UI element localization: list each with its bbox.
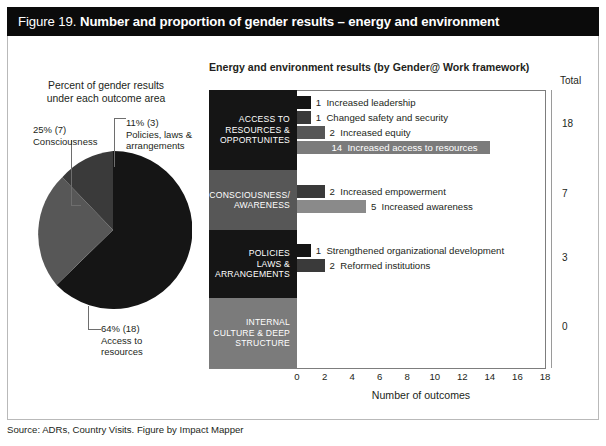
pie-label-policies-name-line1: Policies, laws & [126, 129, 200, 141]
category-block-label-line: ACCESS TO [239, 114, 290, 124]
plot-border-right [545, 90, 546, 368]
x-axis-title: Number of outcomes [296, 389, 546, 401]
bar-label-1-2: 1 Changed safety and security [316, 111, 448, 124]
pie-chart-title-line2: under each outcome area [26, 92, 186, 105]
total-value-1: 18 [562, 118, 573, 129]
x-tick-6: 6 [377, 371, 382, 382]
category-block-label-line: ARRANGEMENTS [215, 269, 290, 279]
category-block-3: POLICIESLAWS &ARRANGEMENTS [209, 230, 297, 298]
pie-leader-line-access-vertical [88, 306, 89, 330]
pie-leader-line-consciousness-foot [71, 205, 81, 206]
category-block-label-line: CONSCIOUSNESS/ [209, 190, 290, 200]
x-tick-0: 0 [294, 371, 299, 382]
pie-label-policies-name-line2: arrangements [126, 140, 200, 152]
bar-category-label: Increased leadership [321, 97, 415, 108]
x-tick-10: 10 [429, 371, 440, 382]
category-block-label-line: OPPORTUNITES [220, 135, 290, 145]
total-column-divider [551, 90, 552, 368]
pie-chart-title: Percent of gender results under each out… [26, 79, 186, 105]
bar-3-1 [297, 244, 311, 257]
bar-value: 14 [331, 142, 342, 153]
x-tick-2: 2 [322, 371, 327, 382]
bar-1-1 [297, 96, 311, 109]
x-tick-8: 8 [405, 371, 410, 382]
bar-3-2 [297, 259, 325, 272]
category-block-label: INTERNALCULTURE & DEEPSTRUCTURE [213, 317, 290, 348]
category-block-label-line: AWARENESS [234, 200, 290, 210]
x-tick-16: 16 [512, 371, 523, 382]
category-block-1: ACCESS TORESOURCES &OPPORTUNITES [209, 90, 297, 170]
figure-title: Number and proportion of gender results … [80, 14, 499, 29]
figure-header-text: Figure 19. Number and proportion of gend… [7, 14, 499, 29]
bar-category-label: Increased access to resources [342, 142, 477, 153]
bar-label-2-1: 2 Increased empowerment [330, 185, 446, 198]
total-column-header: Total [560, 75, 581, 86]
bar-2-1 [297, 185, 325, 198]
pie-label-policies-value: 11% (3) [126, 117, 200, 129]
category-block-label-line: INTERNAL [246, 317, 290, 327]
category-block-label-line: STRUCTURE [235, 338, 290, 348]
total-value-3: 3 [562, 252, 568, 263]
category-block-2: CONSCIOUSNESS/AWARENESS [209, 170, 297, 230]
pie-label-consciousness: 25% (7) Consciousness [33, 124, 113, 147]
total-value-4: 0 [562, 321, 568, 332]
bar-1-3 [297, 126, 325, 139]
bar-1-2 [297, 111, 311, 124]
total-value-2: 7 [562, 188, 568, 199]
figure-header-bar: Figure 19. Number and proportion of gend… [7, 7, 599, 36]
bar-category-label: Changed safety and security [321, 112, 448, 123]
pie-leader-line-access-horizontal [88, 329, 101, 330]
pie-label-access-value: 64% (18) [101, 323, 181, 335]
pie-label-consciousness-value: 25% (7) [33, 124, 113, 136]
plot-axis-x [209, 368, 546, 369]
figure-source: Source: ADRs, Country Visits. Figure by … [7, 424, 244, 435]
category-block-4: INTERNALCULTURE & DEEPSTRUCTURE [209, 298, 297, 368]
bar-label-1-1: 1 Increased leadership [316, 96, 416, 109]
x-tick-4: 4 [349, 371, 354, 382]
pie-label-policies: 11% (3) Policies, laws & arrangements [126, 117, 200, 152]
pie-chart-title-line1: Percent of gender results [26, 79, 186, 92]
category-block-label-line: CULTURE & DEEP [213, 328, 290, 338]
bar-label-3-1: 1 Strengthened organizational developmen… [316, 244, 504, 257]
category-block-label-line: RESOURCES & [225, 125, 290, 135]
category-block-label: CONSCIOUSNESS/AWARENESS [209, 190, 290, 211]
x-tick-14: 14 [485, 371, 496, 382]
bar-chart-title: Energy and environment results (by Gende… [209, 61, 529, 73]
x-tick-18: 18 [540, 371, 551, 382]
pie-label-access-name-line2: resources [101, 346, 181, 358]
bar-category-label: Increased equity [335, 127, 411, 138]
pie-leader-line-policies-horizontal [114, 118, 126, 119]
category-block-label: POLICIESLAWS &ARRANGEMENTS [215, 248, 290, 279]
category-block-label-line: POLICIES [249, 248, 290, 258]
pie-leader-line-policies-vertical [114, 118, 115, 167]
bar-label-1-4: 14 Increased access to resources [331, 141, 477, 154]
pie-label-access-name-line1: Access to [101, 335, 181, 347]
category-block-label-line: LAWS & [257, 259, 290, 269]
bar-category-label: Reformed institutions [335, 260, 430, 271]
bar-label-3-2: 2 Reformed institutions [330, 259, 431, 272]
x-tick-12: 12 [457, 371, 468, 382]
pie-chart [34, 151, 192, 309]
bar-2-2 [297, 200, 366, 213]
pie-leader-line-consciousness [71, 140, 72, 206]
bar-label-2-2: 5 Increased awareness [371, 200, 473, 213]
bar-category-label: Increased empowerment [335, 186, 446, 197]
figure-number: Figure 19. [18, 14, 76, 29]
pie-chart-svg [34, 151, 192, 309]
bar-label-1-3: 2 Increased equity [330, 126, 411, 139]
bar-category-label: Strengthened organizational development [321, 245, 504, 256]
pie-label-consciousness-name: Consciousness [33, 136, 113, 148]
bar-category-label: Increased awareness [376, 201, 473, 212]
pie-label-access: 64% (18) Access to resources [101, 323, 181, 358]
category-block-label: ACCESS TORESOURCES &OPPORTUNITES [220, 114, 290, 145]
figure-root: Figure 19. Number and proportion of gend… [0, 0, 606, 446]
